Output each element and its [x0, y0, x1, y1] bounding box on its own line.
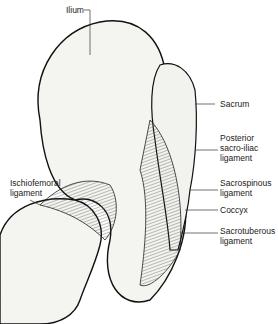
label-ilium: Ilium — [66, 5, 84, 15]
label-posterior-sacroiliac-ligament: Posterior sacro-iliac ligament — [220, 133, 258, 163]
label-sacrospinous-ligament: Sacrospinous ligament — [220, 178, 272, 198]
label-coccyx: Coccyx — [220, 205, 248, 215]
label-ischiofemoral-ligament: Ischiofemoral ligament — [10, 178, 61, 198]
label-sacrum: Sacrum — [220, 99, 249, 109]
label-sacrotuberous-ligament: Sacrotuberous ligament — [220, 226, 275, 246]
